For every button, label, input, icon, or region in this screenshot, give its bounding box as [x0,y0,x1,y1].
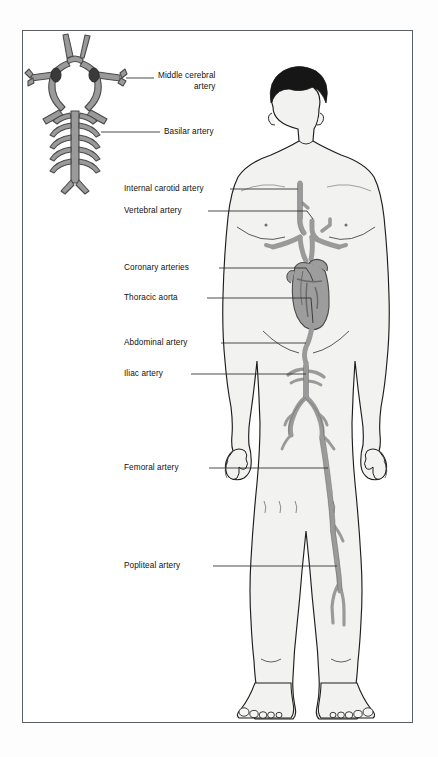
label-middle-cerebral-artery: Middle cerebral artery [158,71,215,92]
label-internal-carotid-artery: Internal carotid artery [124,184,204,195]
label-coronary-arteries: Coronary arteries [124,263,189,274]
label-popliteal-artery: Popliteal artery [124,561,180,572]
label-vertebral-artery: Vertebral artery [124,206,182,217]
figure-frame: Middle cerebral artery Basilar artery In… [22,30,413,723]
label-femoral-artery: Femoral artery [124,463,179,474]
label-abdominal-artery: Abdominal artery [124,338,188,349]
label-line-1: Middle cerebral [158,71,215,82]
label-iliac-artery: Iliac artery [124,369,163,380]
label-thoracic-aorta: Thoracic aorta [124,293,178,304]
label-basilar-artery: Basilar artery [164,127,214,138]
circle-of-willis [25,34,127,194]
label-line-2: artery [158,82,215,93]
arterial-system-diagram [23,31,412,722]
